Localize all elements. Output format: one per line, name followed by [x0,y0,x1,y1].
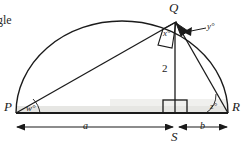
baseline-shadow [16,99,228,112]
vertex-label-S: S [171,130,178,143]
dimension-label-a: a [83,121,88,131]
vertex-label-Q: Q [169,1,178,14]
vertex-label-P: P [4,100,12,113]
dimension-label-b: b [200,121,205,131]
cutoff-text: gle [0,14,12,26]
angle-label-z: z° [210,102,217,111]
angle-label-y: y° [207,22,215,31]
angle-label-w: w° [26,104,36,113]
angle-label-x: x° [163,29,171,38]
length-label-2: 2 [162,63,168,74]
vertex-label-R: R [232,100,240,113]
diagram-canvas: gle P Q R S w° x° y° z° 2 a b [0,0,244,144]
